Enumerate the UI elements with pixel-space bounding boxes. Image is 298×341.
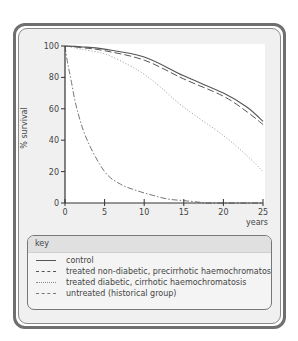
x-tick-label: 10	[139, 208, 149, 217]
plot-area	[65, 44, 265, 203]
y-ticks: 020406080100	[44, 42, 65, 208]
y-tick-label: 0	[54, 199, 59, 208]
y-tick-label: 20	[49, 168, 59, 177]
x-tick-label: 5	[102, 208, 107, 217]
solid-line-swatch-icon	[36, 260, 56, 261]
y-axis-title: % survival	[20, 107, 29, 149]
y-tick-label: 40	[49, 136, 59, 145]
legend-item-untreated: untreated (historical group)	[28, 288, 271, 299]
x-axis-title: years	[246, 218, 268, 227]
y-tick-label: 100	[44, 42, 59, 51]
x-tick-label: 20	[218, 208, 228, 217]
y-tick-label: 60	[49, 105, 59, 114]
legend-item-treated-non-diabetic: treated non-diabetic, precirrhotic haemo…	[28, 266, 271, 277]
dotted-line-swatch-icon	[36, 282, 56, 283]
x-tick-label: 25	[258, 208, 268, 217]
legend-box: key control treated non-diabetic, precir…	[27, 235, 272, 310]
x-tick-label: 15	[179, 208, 189, 217]
legend-item-control: control	[28, 255, 271, 266]
dashed-line-swatch-icon	[36, 271, 56, 272]
y-tick-label: 80	[49, 73, 59, 82]
legend-title: key	[28, 236, 271, 253]
legend-item-treated-diabetic: treated diabetic, cirrhotic haemochromat…	[28, 277, 271, 288]
x-tick-label: 0	[62, 208, 67, 217]
dash-dot-line-swatch-icon	[36, 293, 56, 294]
